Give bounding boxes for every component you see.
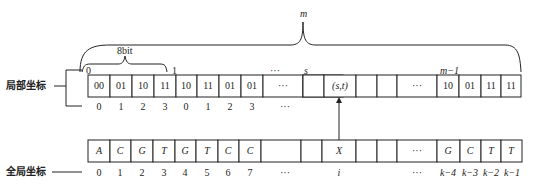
svg-text:···: ···: [278, 80, 288, 91]
diagram: m 8bit 0 1 ··· s m−1 局部坐标 00 01 10 11 10: [0, 0, 533, 189]
svg-text:11: 11: [160, 80, 170, 91]
tick-0: 0: [86, 65, 91, 76]
svg-text:C: C: [225, 145, 232, 156]
svg-text:11: 11: [506, 80, 516, 91]
svg-text:01: 01: [116, 80, 126, 91]
svg-text:3: 3: [162, 167, 167, 178]
svg-text:C: C: [117, 145, 124, 156]
svg-text:00: 00: [94, 80, 104, 91]
svg-text:1: 1: [206, 101, 211, 112]
svg-text:01: 01: [225, 80, 235, 91]
svg-text:7: 7: [248, 167, 253, 178]
svg-text:10: 10: [181, 80, 191, 91]
svg-text:···: ···: [412, 145, 422, 156]
svg-text:0: 0: [97, 101, 102, 112]
local-row-indices: 0 1 2 3 0 1 2 3 ···: [97, 101, 291, 112]
global-coord-label: 全局坐标: [5, 165, 46, 177]
svg-text:1: 1: [119, 101, 124, 112]
local-row: [88, 75, 521, 97]
svg-text:···: ···: [412, 80, 422, 91]
svg-text:11: 11: [203, 80, 213, 91]
svg-text:C: C: [467, 145, 474, 156]
tick-m1: m−1: [440, 65, 459, 76]
svg-text:X: X: [335, 145, 343, 156]
svg-text:01: 01: [247, 80, 257, 91]
svg-text:11: 11: [486, 80, 496, 91]
svg-text:4: 4: [183, 167, 188, 178]
8bit-brace: [82, 56, 167, 72]
svg-text:10: 10: [443, 80, 453, 91]
8bit-label: 8bit: [117, 45, 133, 56]
svg-text:3: 3: [163, 101, 168, 112]
svg-text:1: 1: [118, 167, 123, 178]
svg-text:10: 10: [138, 80, 148, 91]
tick-s: s: [304, 65, 308, 76]
global-row-indices: 0 1 2 3 4 5 6 7 ··· i ··· k−4 k−3 k−2 k−…: [97, 167, 521, 178]
local-coord-label: 局部坐标: [5, 79, 46, 91]
svg-text:k−4: k−4: [440, 167, 456, 178]
svg-text:···: ···: [412, 167, 422, 178]
svg-text:G: G: [181, 145, 188, 156]
svg-text:2: 2: [141, 101, 146, 112]
svg-text:G: G: [444, 145, 451, 156]
svg-text:0: 0: [184, 101, 189, 112]
svg-text:k−3: k−3: [462, 167, 478, 178]
svg-text:k−2: k−2: [483, 167, 499, 178]
svg-text:2: 2: [228, 101, 233, 112]
global-row: [88, 140, 522, 162]
m-label: m: [300, 8, 307, 19]
svg-text:3: 3: [250, 101, 255, 112]
svg-text:2: 2: [140, 167, 145, 178]
svg-text:···: ···: [280, 167, 290, 178]
svg-text:···: ···: [280, 101, 290, 112]
tick-dots: ···: [270, 65, 280, 76]
svg-text:6: 6: [226, 167, 231, 178]
svg-text:01: 01: [465, 80, 475, 91]
tick-1: 1: [172, 65, 177, 76]
svg-text:(s,t): (s,t): [332, 80, 349, 92]
svg-text:5: 5: [205, 167, 210, 178]
svg-text:k−1: k−1: [504, 167, 520, 178]
svg-text:A: A: [95, 145, 103, 156]
local-bracket: [54, 70, 82, 106]
arrow-head: [336, 97, 342, 103]
svg-text:0: 0: [97, 167, 102, 178]
svg-text:i: i: [338, 167, 341, 178]
svg-text:G: G: [138, 145, 145, 156]
svg-text:C: C: [247, 145, 254, 156]
